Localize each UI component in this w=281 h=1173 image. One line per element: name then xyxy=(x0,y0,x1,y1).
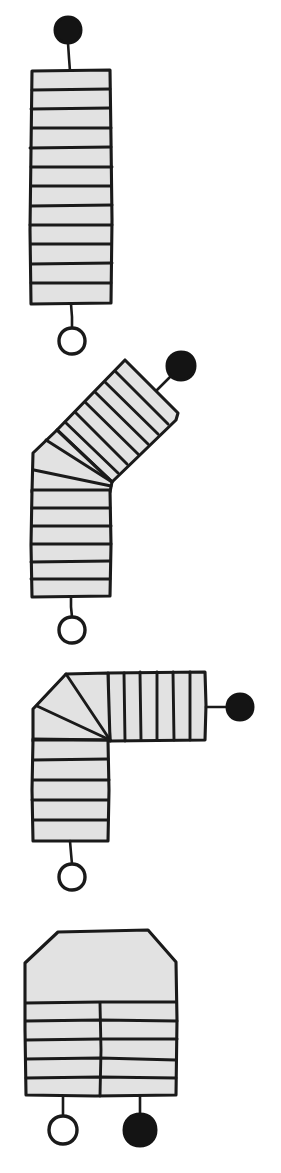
panel-2-open-node-icon[interactable] xyxy=(59,617,85,643)
panel-1-bottom-stem xyxy=(71,304,72,328)
panel-2-bottom-stem xyxy=(71,597,72,617)
panel-2-filled-node-icon[interactable] xyxy=(167,352,195,380)
panel-3-filled-node-icon[interactable] xyxy=(227,694,253,720)
panel-3-open-node-icon[interactable] xyxy=(59,864,85,890)
panel-1-straight-ladder[interactable] xyxy=(30,17,112,354)
diagram-canvas xyxy=(0,0,281,1173)
figure-root: Four schematic ladder-chain diagrams str… xyxy=(0,0,281,1173)
panel-4-column-divider xyxy=(100,1003,101,1096)
panel-3-vertical-arm xyxy=(32,740,109,841)
panel-4-filled-node-icon[interactable] xyxy=(124,1114,156,1146)
panel-1-filled-node-icon[interactable] xyxy=(55,17,81,43)
panel-2-bent-ladder-45[interactable] xyxy=(31,352,195,643)
panel-1-top-stem xyxy=(68,43,70,71)
panel-1-open-node-icon[interactable] xyxy=(59,328,85,354)
panel-3-bent-ladder-90[interactable] xyxy=(32,672,253,890)
panel-4-open-node-icon[interactable] xyxy=(49,1116,77,1144)
panel-4-double-column-ladder[interactable] xyxy=(25,930,177,1146)
panel-3-bottom-stem xyxy=(70,841,72,864)
